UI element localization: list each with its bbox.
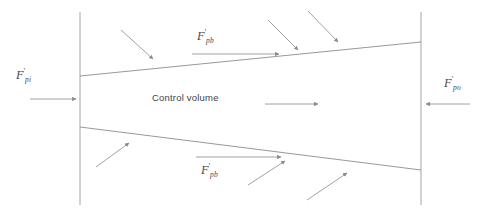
- bottom-boundary-force-symbol: F: [201, 163, 209, 177]
- inlet-force-symbol: F: [16, 68, 24, 82]
- top-boundary-force-subscript: pb: [206, 36, 214, 45]
- top-incoming-arrow-3: [308, 11, 338, 42]
- diagram-canvas: [0, 0, 489, 216]
- control-volume-diagram: Control volume F'pi F'po F'pb F'pb: [0, 0, 489, 216]
- top-incoming-arrow-1: [121, 30, 153, 59]
- top-incoming-arrow-2: [268, 20, 298, 50]
- bottom-incoming-arrow-3: [307, 173, 347, 200]
- bottom-incoming-arrow-1: [96, 143, 129, 167]
- bottom-incoming-arrow-2: [248, 161, 285, 185]
- top-boundary-force-symbol: F: [197, 29, 205, 43]
- inlet-force-label: F'pi: [16, 67, 31, 84]
- top-boundary-line: [80, 42, 421, 76]
- control-volume-label: Control volume: [152, 92, 219, 103]
- outlet-force-subscript: po: [453, 83, 461, 92]
- inlet-force-subscript: pi: [25, 75, 31, 84]
- top-boundary-force-label: F'pb: [197, 28, 214, 45]
- bottom-boundary-line: [80, 127, 421, 170]
- outlet-force-label: F'po: [444, 75, 461, 92]
- outlet-force-symbol: F: [444, 76, 452, 90]
- bottom-boundary-force-label: F'pb: [201, 162, 218, 179]
- bottom-boundary-force-subscript: pb: [210, 170, 218, 179]
